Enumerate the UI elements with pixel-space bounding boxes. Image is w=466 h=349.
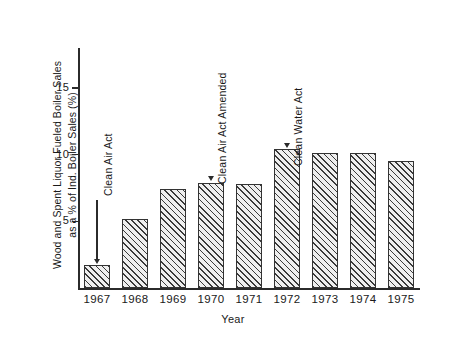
bar-1968[interactable] bbox=[122, 219, 148, 288]
bar-1970[interactable] bbox=[198, 183, 224, 288]
y-tick-label: 15 bbox=[43, 81, 69, 93]
annotation-label-3: Clean Water Act bbox=[292, 88, 304, 166]
bar-1972[interactable] bbox=[274, 149, 300, 288]
annotation-arrow-icon-3 bbox=[284, 143, 290, 148]
annotation-leader-line-1 bbox=[96, 200, 97, 259]
bar-1971[interactable] bbox=[236, 184, 262, 288]
bar-1974[interactable] bbox=[350, 153, 376, 288]
y-axis-title: Wood and Spent Liquor Fueled Boiler Sale… bbox=[50, 30, 80, 300]
annotation-label-2: Clean Air Act Amended bbox=[216, 72, 228, 184]
bar-1975[interactable] bbox=[388, 161, 414, 288]
annotation-arrow-icon-1 bbox=[94, 259, 100, 264]
y-axis-title-line-1: Wood and Spent Liquor Fueled Boiler Sale… bbox=[50, 30, 65, 300]
x-axis-title: Year bbox=[0, 313, 466, 325]
y-tick-mark bbox=[72, 87, 78, 89]
annotation-arrow-icon-2 bbox=[208, 176, 214, 181]
bar-1969[interactable] bbox=[160, 189, 186, 288]
y-tick-mark bbox=[72, 221, 78, 223]
y-tick-mark bbox=[72, 154, 78, 156]
bar-1967[interactable] bbox=[84, 265, 110, 288]
y-axis-line bbox=[78, 48, 80, 289]
x-axis-line bbox=[78, 288, 420, 290]
y-tick-label: 5 bbox=[43, 214, 69, 226]
y-tick-label: 10 bbox=[43, 148, 69, 160]
chart-canvas: Wood and Spent Liquor Fueled Boiler Sale… bbox=[0, 0, 466, 349]
x-tick-label-1975: 1975 bbox=[378, 293, 424, 305]
bar-1973[interactable] bbox=[312, 153, 338, 288]
annotation-label-1: Clean Air Act bbox=[102, 133, 114, 196]
